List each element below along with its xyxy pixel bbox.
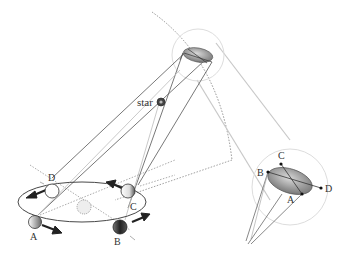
inset-label-B: B bbox=[257, 167, 264, 178]
earth-A bbox=[29, 216, 42, 229]
star-icon bbox=[157, 98, 165, 106]
earth-B bbox=[113, 220, 127, 234]
apparent-path-small bbox=[182, 46, 214, 65]
inset-label-A: A bbox=[287, 194, 295, 205]
inset-label-D: D bbox=[325, 183, 332, 194]
earth-D bbox=[45, 184, 59, 198]
distance-arc bbox=[115, 12, 232, 200]
star-label: star bbox=[137, 96, 153, 108]
inset-label-C: C bbox=[278, 150, 285, 161]
earth-C bbox=[121, 184, 135, 198]
orbit-label-C: C bbox=[130, 201, 137, 212]
parallax-diagram: star D A B C bbox=[0, 0, 355, 258]
orbit-label-B: B bbox=[114, 236, 121, 247]
orbit-label-D: D bbox=[48, 172, 55, 183]
sun-icon bbox=[77, 200, 91, 214]
orbit-label-A: A bbox=[30, 231, 38, 242]
